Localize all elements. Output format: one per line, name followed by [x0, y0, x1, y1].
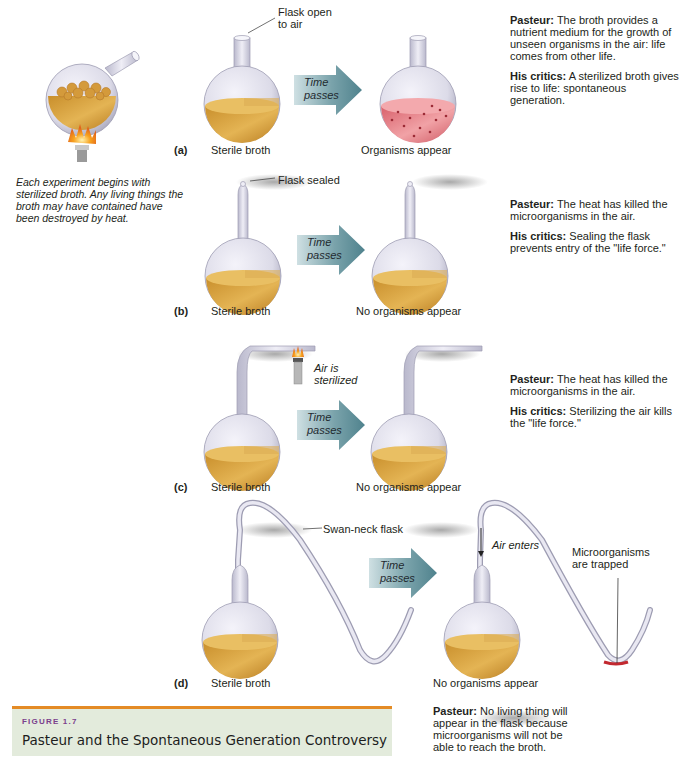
arrow-line: passes: [304, 89, 339, 102]
arrow-line: passes: [307, 424, 342, 437]
panel-a-art: [204, 18, 488, 190]
time-passes-arrow-label: Time passes: [380, 559, 415, 585]
pasteur-label: Pasteur:: [510, 373, 554, 385]
pasteur-label: Pasteur:: [510, 198, 554, 210]
critics-label: His critics:: [510, 230, 566, 242]
panel-letter-a: (a): [174, 144, 187, 156]
figure-caption: FIGURE 1.7 Pasteur and the Spontaneous G…: [12, 706, 392, 756]
critics-label: His critics:: [510, 70, 566, 82]
callout-microorganisms-trapped: Microorganisms are trapped: [572, 546, 650, 570]
panel-letter-d: (d): [174, 677, 188, 689]
panel-letter-c: (c): [174, 481, 187, 493]
critics-view: His critics: A sterilized broth gives ri…: [510, 70, 682, 106]
arrow-line: Time: [380, 559, 415, 572]
time-passes-arrow-label: Time passes: [307, 236, 342, 262]
panel-letter-b: (b): [174, 305, 188, 317]
pasteur-label: Pasteur:: [510, 14, 554, 26]
callout-flask-sealed: Flask sealed: [278, 174, 340, 186]
caption-no-organisms: No organisms appear: [356, 481, 461, 493]
caption-no-organisms: No organisms appear: [356, 305, 461, 317]
callout-line: Air is: [314, 362, 357, 374]
panel-b-explanation: Pasteur: The heat has killed the microor…: [510, 198, 682, 262]
arrow-line: Time: [304, 76, 339, 89]
caption-no-organisms: No organisms appear: [433, 677, 538, 689]
time-passes-arrow-label: Time passes: [304, 76, 339, 102]
pasteur-view: Pasteur: The broth provides a nutrient m…: [510, 14, 682, 62]
figure-title: Pasteur and the Spontaneous Generation C…: [22, 732, 387, 748]
panel-d-explanation: Pasteur: No living thing will appear in …: [433, 705, 583, 759]
arrow-line: passes: [307, 249, 342, 262]
critics-view: His critics: Sterilizing the air kills t…: [510, 405, 682, 429]
callout-line: sterilized: [314, 374, 357, 386]
critics-label: His critics:: [510, 405, 566, 417]
pasteur-label: Pasteur:: [433, 705, 477, 717]
caption-sterile-broth: Sterile broth: [211, 305, 270, 317]
callout-line: are trapped: [572, 558, 650, 570]
callout-line: Flask open: [278, 6, 332, 18]
panel-c-explanation: Pasteur: The heat has killed the microor…: [510, 373, 682, 437]
critics-view: His critics: Sealing the flask prevents …: [510, 230, 682, 254]
callout-line: Microorganisms: [572, 546, 650, 558]
arrow-line: Time: [307, 411, 342, 424]
arrow-line: passes: [380, 572, 415, 585]
callout-swan-neck-flask: Swan-neck flask: [323, 523, 403, 535]
callout-air-sterilized: Air is sterilized: [314, 362, 357, 386]
caption-sterile-broth: Sterile broth: [211, 481, 270, 493]
heated-flask-icon: [46, 50, 141, 162]
callout-air-enters: Air enters: [492, 539, 539, 551]
panel-a-explanation: Pasteur: The broth provides a nutrient m…: [510, 14, 682, 114]
panel-b-art: [205, 178, 480, 362]
pasteur-view: Pasteur: The heat has killed the microor…: [510, 373, 682, 397]
caption-organisms-appear: Organisms appear: [361, 144, 452, 156]
caption-sterile-broth: Sterile broth: [211, 144, 270, 156]
arrow-line: Time: [307, 236, 342, 249]
callout-flask-open: Flask open to air: [278, 6, 332, 30]
pasteur-view: Pasteur: No living thing will appear in …: [433, 705, 583, 753]
time-passes-arrow-label: Time passes: [307, 411, 342, 437]
callout-line: to air: [278, 18, 332, 30]
caption-sterile-broth: Sterile broth: [211, 677, 270, 689]
pasteur-view: Pasteur: The heat has killed the microor…: [510, 198, 682, 222]
intro-text: Each experiment begins with sterilized b…: [16, 176, 186, 224]
figure-number: FIGURE 1.7: [22, 717, 78, 726]
